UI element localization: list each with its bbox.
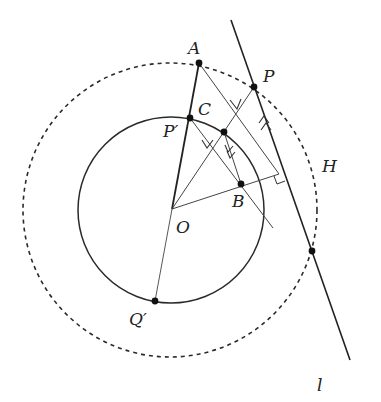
line-qp-o: [155, 209, 172, 301]
circle-h-dashed: [23, 63, 317, 357]
geometry-diagram: A P C P′ B O Q′ H l: [0, 0, 381, 402]
label-o: O: [176, 217, 190, 237]
point-p: [251, 84, 258, 91]
point-b: [238, 181, 245, 188]
line-l: [231, 20, 350, 360]
point-c: [221, 129, 228, 136]
label-c: C: [198, 99, 211, 119]
label-a: A: [186, 38, 200, 58]
label-b: B: [231, 191, 245, 211]
point-a: [196, 60, 203, 67]
point-intersection-l-h: [309, 248, 316, 255]
label-h: H: [321, 156, 338, 176]
point-q-prime: [152, 298, 159, 305]
point-p-prime: [187, 115, 194, 122]
label-p-prime: P′: [162, 121, 178, 141]
line-o-foot: [172, 174, 279, 209]
right-angle-marker: [274, 176, 285, 184]
line-pp-parallel: [190, 118, 273, 228]
label-p: P: [262, 66, 275, 86]
label-q-prime: Q′: [129, 309, 147, 329]
label-l: l: [317, 375, 322, 395]
